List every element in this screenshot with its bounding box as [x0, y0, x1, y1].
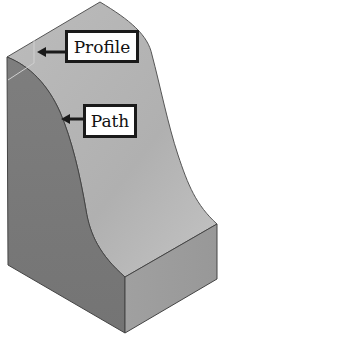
path-label-text: Path [91, 111, 130, 131]
profile-label-text: Profile [74, 37, 131, 57]
sweep-diagram: Profile Path [0, 0, 343, 337]
path-label: Path [83, 104, 137, 138]
swept-solid [0, 0, 343, 337]
profile-label: Profile [65, 30, 139, 63]
